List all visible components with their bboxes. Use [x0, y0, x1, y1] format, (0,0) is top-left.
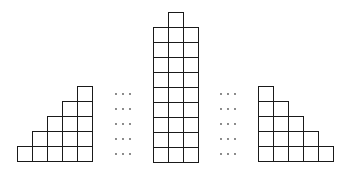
ellipsis-dot [122, 153, 124, 155]
grid-cell [184, 103, 199, 118]
ellipsis-dot [122, 138, 124, 140]
grid-cell [184, 58, 199, 73]
ellipsis-dot [129, 93, 131, 95]
grid-cell [184, 88, 199, 103]
grid-cell [48, 117, 63, 132]
grid-cell [154, 103, 169, 118]
left-ellipsis [115, 93, 131, 155]
right-staircase [259, 87, 334, 162]
grid-cell [78, 117, 93, 132]
ellipsis-dot [129, 123, 131, 125]
grid-cell [184, 73, 199, 88]
ellipsis-dot [227, 153, 229, 155]
grid-cell [169, 13, 184, 28]
grid-cell [154, 28, 169, 43]
ellipsis-dot [220, 138, 222, 140]
grid-cell [184, 133, 199, 148]
ellipsis-dot [220, 93, 222, 95]
grid-cell [154, 43, 169, 58]
ellipsis-dot [115, 93, 117, 95]
grid-cell [169, 43, 184, 58]
ellipsis-dot [122, 93, 124, 95]
grid-cell [33, 147, 48, 162]
ellipsis-dot [115, 123, 117, 125]
grid-cell [154, 73, 169, 88]
grid-cell [154, 118, 169, 133]
grid-cell [169, 88, 184, 103]
ellipsis-dot [234, 93, 236, 95]
grid-cell [259, 132, 274, 147]
grid-cell [78, 102, 93, 117]
grid-cell [154, 58, 169, 73]
ellipsis-dot [115, 138, 117, 140]
grid-cell [169, 73, 184, 88]
grid-cell [274, 147, 289, 162]
grid-cell [304, 147, 319, 162]
ellipsis-dot [122, 123, 124, 125]
ellipsis-dot [227, 138, 229, 140]
grid-cell [63, 102, 78, 117]
grid-cell [259, 147, 274, 162]
grid-cell [78, 132, 93, 147]
grid-cell [259, 102, 274, 117]
grid-cell [169, 133, 184, 148]
grid-cell [33, 132, 48, 147]
ellipsis-dot [129, 153, 131, 155]
right-ellipsis [220, 93, 236, 155]
ellipsis-dot [227, 93, 229, 95]
grid-cell [154, 133, 169, 148]
grid-cell [319, 147, 334, 162]
ellipsis-dot [234, 138, 236, 140]
grid-cell [259, 117, 274, 132]
grid-cell [289, 147, 304, 162]
grid-cell [289, 117, 304, 132]
grid-cell [169, 118, 184, 133]
grid-cell [184, 118, 199, 133]
cell-shapes [18, 13, 334, 163]
center-column [154, 13, 199, 163]
grid-cell [304, 132, 319, 147]
grid-cell [18, 147, 33, 162]
ellipsis-dot [220, 108, 222, 110]
grid-cell [78, 147, 93, 162]
diagram-canvas [0, 0, 349, 171]
ellipsis-dot [227, 123, 229, 125]
ellipsis-dot [234, 123, 236, 125]
grid-cell [48, 147, 63, 162]
grid-cell [274, 117, 289, 132]
grid-cell [169, 58, 184, 73]
grid-cell [184, 148, 199, 163]
ellipsis-dot [234, 153, 236, 155]
grid-cell [169, 28, 184, 43]
grid-cell [48, 132, 63, 147]
grid-cell [169, 103, 184, 118]
grid-cell [154, 88, 169, 103]
ellipsis-dot [227, 108, 229, 110]
ellipsis-dot [220, 123, 222, 125]
grid-cell [154, 148, 169, 163]
ellipsis-dot [115, 153, 117, 155]
grid-cell [259, 87, 274, 102]
ellipsis-dot [220, 153, 222, 155]
ellipsis-dot [234, 108, 236, 110]
ellipsis-dot [122, 108, 124, 110]
grid-cell [169, 148, 184, 163]
grid-cell [184, 28, 199, 43]
ellipsis-dot [129, 108, 131, 110]
grid-cell [184, 43, 199, 58]
left-staircase [18, 87, 93, 162]
grid-cell [274, 132, 289, 147]
ellipsis-dot [129, 138, 131, 140]
grid-cell [274, 102, 289, 117]
ellipsis-dot [115, 108, 117, 110]
grid-cell [63, 117, 78, 132]
grid-cell [78, 87, 93, 102]
grid-cell [63, 132, 78, 147]
grid-cell [289, 132, 304, 147]
grid-cell [63, 147, 78, 162]
